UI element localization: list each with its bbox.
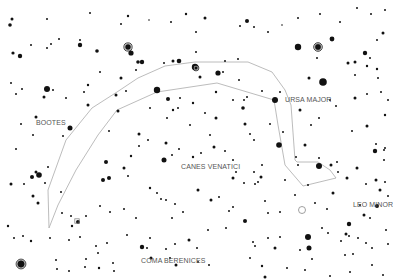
- star: [97, 252, 99, 254]
- star: [215, 91, 217, 93]
- star-chart: BOOTES URSA MAJOR CANES VENATICI LEO MIN…: [0, 0, 393, 279]
- star: [149, 107, 151, 109]
- star: [294, 194, 296, 196]
- star: [373, 149, 377, 153]
- star: [160, 198, 162, 200]
- star: [149, 187, 151, 189]
- star: [375, 143, 377, 145]
- star: [209, 134, 211, 136]
- star: [330, 164, 333, 167]
- star: [104, 160, 108, 164]
- label-ursa-major: URSA MAJOR: [285, 96, 332, 103]
- star: [195, 51, 197, 53]
- star: [327, 232, 329, 234]
- star: [65, 97, 67, 99]
- star: [354, 61, 357, 64]
- star: [85, 215, 87, 217]
- star: [154, 87, 160, 93]
- star: [44, 86, 50, 92]
- label-bootes: BOOTES: [36, 119, 66, 126]
- star: [49, 237, 51, 239]
- star: [382, 32, 385, 35]
- star: [61, 212, 63, 214]
- star: [30, 44, 32, 46]
- star: [215, 70, 220, 75]
- star: [177, 59, 182, 64]
- star: [351, 130, 353, 132]
- star: [279, 236, 281, 238]
- star: [21, 88, 23, 90]
- star: [70, 215, 72, 217]
- star: [276, 142, 282, 148]
- star: [232, 99, 234, 101]
- star: [370, 13, 372, 15]
- star: [365, 242, 367, 244]
- star: [282, 131, 284, 133]
- star: [11, 18, 14, 21]
- star: [199, 76, 202, 79]
- star: [170, 21, 172, 23]
- star: [254, 245, 256, 247]
- star: [195, 31, 197, 33]
- star: [375, 179, 378, 182]
- star: [267, 31, 269, 33]
- label-coma-berenices: COMA BERENICES: [141, 257, 206, 264]
- star: [241, 106, 245, 110]
- star: [83, 91, 85, 93]
- star: [383, 159, 385, 161]
- star: [84, 266, 86, 268]
- star: [379, 189, 382, 192]
- star: [135, 217, 137, 219]
- star: [222, 71, 224, 73]
- star: [11, 51, 14, 54]
- star: [339, 21, 341, 23]
- star: [279, 211, 281, 213]
- star: [318, 157, 320, 159]
- star: [337, 171, 339, 173]
- star: [20, 123, 22, 125]
- star: [30, 240, 32, 242]
- star: [208, 264, 210, 266]
- star: [308, 77, 311, 80]
- star: [79, 39, 81, 41]
- star: [46, 47, 48, 49]
- star: [50, 43, 52, 45]
- star: [257, 181, 259, 183]
- star: [321, 227, 323, 229]
- star: [384, 181, 386, 183]
- star: [366, 65, 368, 67]
- star: [232, 159, 234, 161]
- star: [166, 117, 168, 119]
- star: [15, 148, 17, 150]
- star: [345, 233, 348, 236]
- star: [156, 192, 158, 194]
- star: [311, 258, 313, 260]
- star: [347, 62, 350, 65]
- star: [140, 60, 144, 64]
- star: [225, 227, 227, 229]
- star: [89, 12, 91, 14]
- star: [261, 265, 263, 267]
- star: [163, 62, 165, 64]
- star: [330, 37, 335, 42]
- star: [192, 156, 194, 158]
- star: [369, 217, 371, 219]
- star: [162, 158, 167, 163]
- star: [200, 152, 202, 154]
- star: [207, 229, 209, 231]
- star: [46, 18, 48, 20]
- star: [112, 262, 114, 264]
- star: [56, 268, 58, 270]
- star: [319, 13, 321, 15]
- bright-star: [125, 44, 131, 50]
- star: [387, 99, 389, 101]
- star: [382, 274, 384, 276]
- star: [348, 235, 350, 237]
- star: [120, 23, 122, 25]
- star: [140, 245, 144, 249]
- star: [115, 94, 118, 97]
- star: [385, 229, 387, 231]
- star: [101, 178, 105, 182]
- star: [18, 54, 22, 58]
- star: [235, 171, 237, 173]
